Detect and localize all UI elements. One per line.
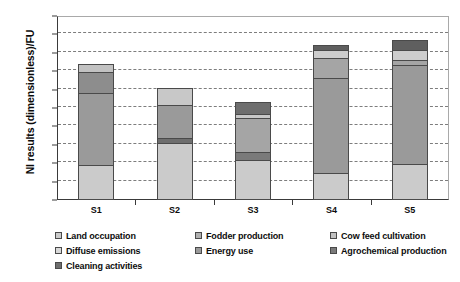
legend-swatch-icon: [55, 262, 62, 269]
bar-segment[interactable]: [157, 105, 193, 139]
legend-label: Land occupation: [66, 231, 136, 241]
bar-stack: [157, 88, 193, 200]
x-tick-mark: [371, 200, 372, 205]
bar-segment[interactable]: [157, 143, 193, 200]
legend-swatch-icon: [195, 247, 202, 254]
legend-column-1: Fodder productionEnergy use: [195, 228, 283, 258]
bar-group-S3[interactable]: [235, 16, 271, 200]
x-tick-label-S3: S3: [223, 205, 283, 215]
legend-label: Fodder production: [206, 231, 283, 241]
legend-label: Cow feed cultivation: [341, 231, 426, 241]
x-tick-label-S5: S5: [380, 205, 440, 215]
legend-label: Agrochemical production: [341, 246, 447, 256]
bar-segment[interactable]: [235, 118, 271, 153]
bar-segment[interactable]: [392, 164, 428, 200]
legend-label: Diffuse emissions: [66, 246, 140, 256]
bar-segment[interactable]: [235, 160, 271, 200]
legend-item[interactable]: Energy use: [195, 243, 283, 258]
legend-swatch-icon: [195, 232, 202, 239]
bar-segment[interactable]: [313, 173, 349, 200]
legend-item[interactable]: Diffuse emissions: [55, 243, 142, 258]
bar-segment[interactable]: [392, 65, 428, 165]
legend-item[interactable]: Fodder production: [195, 228, 283, 243]
bar-stack: [235, 102, 271, 200]
x-tick-label-S1: S1: [66, 205, 126, 215]
bar-stack: [392, 40, 428, 200]
bar-group-S5[interactable]: [392, 16, 428, 200]
legend-swatch-icon: [55, 247, 62, 254]
y-axis-title: NI results (dimensionless)/FU: [24, 2, 36, 202]
legend-label: Energy use: [206, 246, 253, 256]
legend-swatch-icon: [55, 232, 62, 239]
legend-swatch-icon: [330, 232, 337, 239]
bar-segment[interactable]: [78, 93, 114, 166]
bar-segment[interactable]: [78, 72, 114, 94]
x-tick-label-S4: S4: [301, 205, 361, 215]
stacked-bar-chart: NI results (dimensionless)/FU 0.000.010.…: [0, 0, 460, 282]
x-tick-mark: [292, 200, 293, 205]
bar-segment[interactable]: [313, 78, 349, 175]
legend-item[interactable]: Agrochemical production: [330, 243, 447, 258]
legend-swatch-icon: [330, 247, 337, 254]
bar-stack: [78, 64, 114, 200]
x-tick-mark: [135, 200, 136, 205]
bar-segment[interactable]: [313, 58, 349, 79]
legend-item[interactable]: Cow feed cultivation: [330, 228, 447, 243]
bar-segment[interactable]: [157, 88, 193, 105]
legend-column-0: Land occupationDiffuse emissionsCleaning…: [55, 228, 142, 273]
legend-column-2: Cow feed cultivationAgrochemical product…: [330, 228, 447, 258]
legend-label: Cleaning activities: [66, 261, 142, 271]
bars-layer: [57, 16, 449, 200]
bar-group-S4[interactable]: [313, 16, 349, 200]
x-tick-mark: [214, 200, 215, 205]
bar-segment[interactable]: [78, 165, 114, 200]
bar-stack: [313, 45, 349, 200]
legend-item[interactable]: Cleaning activities: [55, 258, 142, 273]
bar-group-S2[interactable]: [157, 16, 193, 200]
x-tick-label-S2: S2: [145, 205, 205, 215]
legend-item[interactable]: Land occupation: [55, 228, 142, 243]
bar-group-S1[interactable]: [78, 16, 114, 200]
